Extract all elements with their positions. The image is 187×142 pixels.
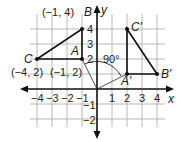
y-axis-arrow-down-icon [94,131,101,139]
point-A [80,57,84,61]
point-B-prime [155,72,159,76]
y-tick-label: 3 [87,38,93,50]
y-axis-arrow-up-icon [94,5,101,13]
angle-label: 90° [103,53,120,65]
y-tick-label: 2 [87,53,93,65]
x-axis-arrow-left-icon [20,86,28,93]
diagram-svg: −4 −3 −2 −1 1 2 3 4 4 3 2 −1 −2 x y B (−… [0,0,187,142]
label-B-prime: B′ [161,67,172,81]
y-axis-label: y [100,3,108,17]
x-tick-label: 1 [109,92,115,104]
label-B: B [84,5,92,19]
y-tick-label: 4 [87,23,93,35]
label-A-prime: A′ [120,74,132,88]
coord-C: (−4, 2) [11,66,43,78]
label-A: A [70,44,79,58]
point-B [80,27,84,31]
y-tick-label: −2 [83,114,96,126]
x-tick-label: −2 [61,92,74,104]
x-tick-label: 2 [124,92,130,104]
y-tick-label: −1 [83,99,96,111]
x-tick-label: −4 [31,92,44,104]
x-tick-label: −3 [46,92,59,104]
label-C-prime: C′ [131,20,143,34]
label-C: C [24,52,33,66]
coord-B: (−1, 4) [42,6,74,18]
coordinate-diagram: −4 −3 −2 −1 1 2 3 4 4 3 2 −1 −2 x y B (−… [0,0,187,142]
x-tick-label: 4 [154,92,160,104]
x-axis-label: x [167,92,175,106]
x-tick-label: 3 [139,92,145,104]
point-C [35,57,39,61]
coord-A: (−1, 2) [50,66,82,78]
point-C-prime [125,27,129,31]
